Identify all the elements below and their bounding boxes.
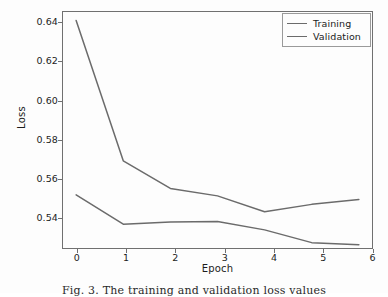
- legend-label-training: Training: [313, 18, 351, 29]
- x-tick-label: 6: [361, 252, 385, 263]
- y-axis-ticks: 0.54 0.56 0.58 0.60 0.62 0.64: [5, 0, 58, 293]
- y-axis-title: Loss: [16, 88, 27, 148]
- chart-legend: Training Validation: [282, 13, 371, 47]
- x-tick-mark: [126, 249, 127, 253]
- y-tick-mark: [58, 101, 62, 102]
- y-tick-label: 0.62: [10, 56, 58, 66]
- x-tick-mark: [175, 249, 176, 253]
- y-tick-label: 0.56: [10, 174, 58, 184]
- y-tick-mark: [58, 179, 62, 180]
- line-series-training: [76, 21, 359, 212]
- x-tick-mark: [323, 249, 324, 253]
- x-tick-label: 2: [163, 252, 187, 263]
- x-tick-label: 5: [311, 252, 335, 263]
- x-tick-label: 3: [213, 252, 237, 263]
- y-tick-label: 0.64: [10, 17, 58, 27]
- y-tick-mark: [58, 218, 62, 219]
- figure-caption: Fig. 3. The training and validation loss…: [0, 284, 388, 297]
- x-tick-mark: [373, 249, 374, 253]
- x-tick-mark: [225, 249, 226, 253]
- x-tick-label: 1: [114, 252, 138, 263]
- legend-swatch-training-icon: [287, 23, 307, 24]
- line-series-validation: [76, 195, 359, 245]
- legend-label-validation: Validation: [313, 31, 361, 42]
- x-tick-label: 4: [262, 252, 286, 263]
- x-axis-title: Epoch: [62, 263, 373, 274]
- legend-entry-validation: Validation: [287, 30, 366, 43]
- legend-entry-training: Training: [287, 17, 366, 30]
- y-tick-mark: [58, 22, 62, 23]
- y-tick-mark: [58, 61, 62, 62]
- x-tick-mark: [77, 249, 78, 253]
- x-tick-label: 0: [65, 252, 89, 263]
- y-tick-label: 0.54: [10, 214, 58, 224]
- y-tick-mark: [58, 140, 62, 141]
- x-tick-mark: [274, 249, 275, 253]
- legend-swatch-validation-icon: [287, 36, 307, 37]
